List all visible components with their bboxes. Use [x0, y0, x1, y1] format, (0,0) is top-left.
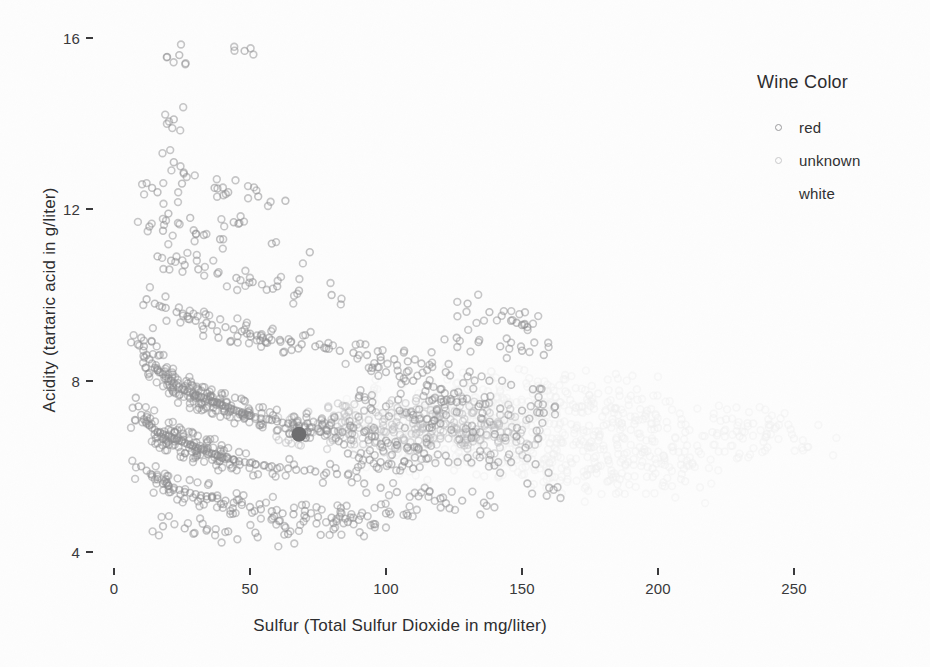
legend-entry-red[interactable]: red — [757, 111, 927, 144]
x-axis-title: Sulfur (Total Sulfur Dioxide in mg/liter… — [0, 616, 800, 636]
x-tick-mark — [113, 568, 115, 575]
x-tick-label: 150 — [509, 580, 535, 597]
y-tick-label: 16 — [48, 30, 80, 47]
y-axis-title: Acidity (tartaric acid in g/liter) — [40, 20, 60, 580]
legend-entry-label: red — [799, 119, 821, 136]
y-tick-label: 8 — [48, 372, 80, 389]
x-tick-mark — [385, 568, 387, 575]
x-tick-mark — [521, 568, 523, 575]
highlighted-data-point — [292, 427, 307, 442]
y-tick-mark — [86, 551, 93, 553]
x-tick-mark — [793, 568, 795, 575]
x-tick-label: 0 — [110, 580, 119, 597]
y-tick-mark — [86, 37, 93, 39]
legend-entry-unknown[interactable]: unknown — [757, 144, 927, 177]
x-tick-label: 50 — [241, 580, 258, 597]
legend: Wine Color redunknownwhite — [757, 72, 927, 210]
legend-entry-label: unknown — [799, 152, 860, 169]
y-tick-mark — [86, 208, 93, 210]
legend-entry-label: white — [799, 185, 835, 202]
y-tick-label: 12 — [48, 201, 80, 218]
legend-entries: redunknownwhite — [757, 111, 927, 210]
x-tick-label: 100 — [373, 580, 399, 597]
legend-marker-icon — [757, 157, 799, 164]
x-tick-label: 250 — [781, 580, 807, 597]
x-tick-label: 200 — [645, 580, 671, 597]
y-tick-mark — [86, 380, 93, 382]
y-tick-label: 4 — [48, 544, 80, 561]
legend-marker-icon — [757, 124, 799, 131]
x-tick-mark — [249, 568, 251, 575]
legend-title: Wine Color — [757, 72, 927, 93]
legend-entry-white[interactable]: white — [757, 177, 927, 210]
x-tick-mark — [657, 568, 659, 575]
legend-marker-icon — [757, 190, 799, 197]
scatter-plot-figure: Acidity (tartaric acid in g/liter) Sulfu… — [0, 0, 930, 667]
